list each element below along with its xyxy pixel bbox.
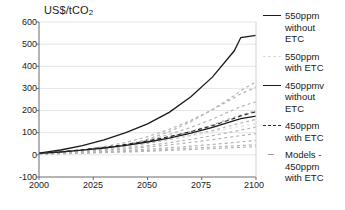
- legend-label-line: Models -: [285, 149, 321, 160]
- legend-label: Models - 450ppm with ETC: [285, 149, 324, 184]
- gridlines: [39, 22, 256, 155]
- legend-label-line: without: [285, 22, 315, 33]
- series-curves: [39, 35, 256, 153]
- legend-label: 550ppm with ETC: [285, 51, 324, 74]
- legend-swatch-faint-dashed-icon: [263, 51, 281, 63]
- legend-label: 450ppmv without ETC: [285, 80, 324, 115]
- legend-label-line: ETC: [285, 33, 304, 44]
- legend-item-450ppmv-without-etc[interactable]: 450ppmv without ETC: [263, 80, 345, 115]
- legend-swatch-solid-icon: [263, 80, 281, 92]
- legend-item-550ppm-without-etc[interactable]: 550ppm without ETC: [263, 10, 345, 45]
- legend-item-models-450ppm-with-etc[interactable]: Models - 450ppm with ETC: [263, 149, 345, 184]
- legend-label-line: 550ppm: [285, 51, 319, 62]
- legend-label: 550ppm without ETC: [285, 10, 319, 45]
- legend-swatch-dashed-icon: [263, 120, 281, 132]
- legend-item-550ppm-with-etc[interactable]: 550ppm with ETC: [263, 51, 345, 74]
- legend-swatch-model-dash-icon: [263, 149, 281, 161]
- chart-figure: US$/tCO2 600 500 400 300 200 100 0 -100 …: [0, 0, 345, 210]
- legend-swatch-solid-icon: [263, 10, 281, 22]
- model-run-curves: [39, 82, 256, 154]
- legend-label: 450ppm with ETC: [285, 120, 324, 143]
- series-curve-550ppm-without-etc: [39, 35, 256, 153]
- legend-label-line: with ETC: [285, 62, 324, 73]
- legend-label-line: 450ppm: [285, 161, 319, 172]
- legend-label-line: 450ppm: [285, 120, 319, 131]
- legend-label-line: with ETC: [285, 132, 324, 143]
- legend-label-line: without: [285, 91, 315, 102]
- legend-label-line: 450ppmv: [285, 80, 324, 91]
- chart-legend: 550ppm without ETC 550ppm with ETC 450pp…: [263, 10, 345, 190]
- legend-label-line: with ETC: [285, 172, 324, 183]
- legend-label-line: 550ppm: [285, 10, 319, 21]
- legend-item-450ppm-with-etc[interactable]: 450ppm with ETC: [263, 120, 345, 143]
- legend-label-line: ETC: [285, 103, 304, 114]
